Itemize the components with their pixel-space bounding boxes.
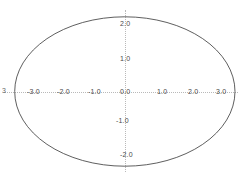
ytick-label-pos1: 1.0 [120,55,130,63]
xtick-label-pos2: 2.0 [188,88,198,96]
xtick-label-neg3: -3.0 [27,88,40,96]
xtick-label-pos1: 1.0 [157,88,167,96]
xtick-label-neg2: -2.0 [57,88,70,96]
ytick-label-pos2: 2.0 [120,20,130,28]
xtick-label-neg1: -1.0 [88,88,101,96]
x-axis-clipped-label: 3 [2,87,8,96]
xtick-label-pos3: 3.0 [216,88,226,96]
ytick-label-neg2: -2.0 [120,151,133,159]
ytick-label-neg1: -1.0 [116,117,129,125]
ellipse-plot: 3 -3.0 -2.0 -1.0 1.0 2.0 3.0 2.0 1.0 0.0… [0,0,246,183]
ytick-label-zero: 0.0 [120,88,130,96]
